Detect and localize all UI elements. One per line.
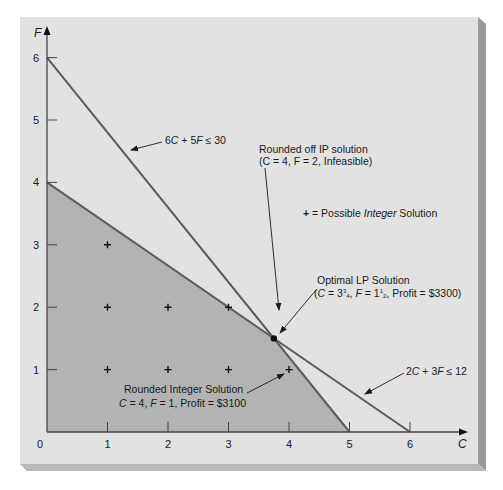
y-tick-label: 1 <box>33 364 39 376</box>
x-axis-label: C <box>458 437 467 451</box>
integer-solution-label: Rounded Integer Solution <box>124 383 243 395</box>
x-tick-label: 4 <box>286 438 292 450</box>
y-tick-label: 6 <box>33 52 39 64</box>
lp-graph-figure: 0123456123456 C F 6C + 5F ≤ 30 Rounded o… <box>0 0 503 490</box>
panel-shadow-bottom <box>20 464 486 471</box>
x-tick-label: 0 <box>37 438 43 450</box>
x-tick-label: 1 <box>105 438 111 450</box>
x-tick-label: 2 <box>165 438 171 450</box>
y-tick-label: 2 <box>33 301 39 313</box>
lp-solution-values: (C = 334, F = 112, Profit = $3300) <box>314 287 461 299</box>
x-tick-label: 5 <box>347 438 353 450</box>
y-tick-label: 5 <box>33 114 39 126</box>
lp-solution-label: Optimal LP Solution <box>317 274 410 286</box>
ip-solution-label: Rounded off IP solution (C = 4, F = 2, I… <box>259 143 372 167</box>
x-tick-label: 6 <box>407 438 413 450</box>
optimal-lp-point <box>271 335 277 341</box>
integer-solution-values: C = 4, F = 1, Profit = $3100 <box>119 397 246 409</box>
panel-shadow-right <box>478 17 486 471</box>
chart-svg: 0123456123456 C F 6C + 5F ≤ 30 Rounded o… <box>0 0 503 490</box>
y-axis-label: F <box>34 26 42 40</box>
legend-integer-solution: + = Possible Integer Solution <box>303 207 437 219</box>
constraint-label-2c-3f: 2C + 3F ≤ 12 <box>406 365 467 377</box>
y-tick-label: 4 <box>33 176 39 188</box>
constraint-label-6c-5f: 6C + 5F ≤ 30 <box>165 134 226 146</box>
x-tick-label: 3 <box>226 438 232 450</box>
y-tick-label: 3 <box>33 239 39 251</box>
